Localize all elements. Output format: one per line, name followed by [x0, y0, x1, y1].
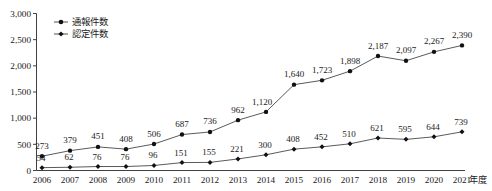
x-axis-tick-label: 2011 — [173, 175, 191, 185]
data-point-label: 221 — [230, 144, 244, 154]
data-point-marker — [376, 136, 381, 141]
x-axis-tick-label: 2006 — [33, 175, 52, 185]
data-point-label: 1,898 — [340, 56, 361, 66]
y-axis-tick-label: 1,500 — [10, 87, 31, 97]
data-point-label: 2,390 — [452, 30, 473, 40]
data-point-label: 451 — [91, 131, 105, 141]
data-point-marker — [208, 160, 213, 165]
x-axis-tick-label: 2014 — [257, 175, 276, 185]
data-point-marker — [432, 50, 436, 54]
x-axis-unit-label: 年度 — [469, 174, 487, 185]
x-axis-tick-label: 2010 — [145, 175, 164, 185]
y-axis-tick-label: 1,000 — [10, 113, 31, 123]
data-point-marker — [236, 118, 240, 122]
data-point-marker — [404, 137, 409, 142]
data-point-marker — [292, 82, 296, 86]
data-point-label: 62 — [65, 152, 74, 162]
data-point-marker — [432, 134, 437, 139]
series-line-1 — [42, 132, 462, 168]
data-point-label: 1,120 — [252, 97, 273, 107]
data-point-label: 273 — [35, 141, 49, 151]
data-point-marker — [348, 69, 352, 73]
data-point-label: 736 — [203, 116, 217, 126]
data-point-marker — [348, 141, 353, 146]
legend-label-1: 認定件数 — [72, 28, 109, 39]
data-point-marker — [96, 145, 100, 149]
x-axis-tick-label: 2015 — [285, 175, 304, 185]
data-point-label: 408 — [286, 134, 300, 144]
data-point-label: 408 — [119, 134, 133, 144]
data-point-label: 96 — [149, 150, 159, 160]
data-point-marker — [460, 43, 464, 47]
data-point-label: 2,267 — [424, 36, 445, 46]
data-point-marker — [376, 54, 380, 58]
data-point-marker — [292, 147, 297, 152]
x-axis-tick-label: 2007 — [61, 175, 80, 185]
data-point-label: 379 — [63, 135, 77, 145]
line-chart: 05001,0001,5002,0002,5003,00020062007200… — [0, 0, 492, 191]
data-point-marker — [208, 130, 212, 134]
data-point-marker — [68, 165, 73, 170]
data-point-label: 151 — [174, 148, 188, 158]
data-point-label: 2,187 — [368, 41, 389, 51]
data-point-label: 506 — [147, 129, 161, 139]
y-axis-tick-label: 2,500 — [10, 35, 31, 45]
data-point-marker — [152, 142, 156, 146]
data-point-marker — [320, 144, 325, 149]
y-axis-tick-label: 500 — [17, 140, 31, 150]
data-point-label: 510 — [342, 129, 356, 139]
data-point-label: 76 — [93, 152, 103, 162]
data-point-label: 621 — [370, 123, 384, 133]
data-point-label: 452 — [314, 132, 328, 142]
data-point-label: 300 — [258, 140, 272, 150]
y-axis-tick-label: 2,000 — [10, 61, 31, 71]
data-point-label: 1,723 — [312, 65, 333, 75]
data-point-label: 76 — [121, 152, 131, 162]
data-point-marker — [96, 164, 101, 169]
y-axis-tick-label: 0 — [26, 166, 31, 176]
data-point-marker — [264, 110, 268, 114]
y-axis-tick-label: 3,000 — [10, 9, 31, 19]
data-point-label: 2,097 — [396, 45, 417, 55]
x-axis-tick-label: 2018 — [369, 175, 388, 185]
x-axis-tick-label: 2016 — [313, 175, 332, 185]
data-point-label: 644 — [426, 122, 440, 132]
x-axis-tick-label: 2009 — [117, 175, 136, 185]
data-point-label: 687 — [175, 119, 189, 129]
x-axis-tick-label: 2012 — [201, 175, 220, 185]
data-point-marker — [152, 163, 157, 168]
data-point-marker — [320, 78, 324, 82]
data-point-marker — [236, 156, 241, 161]
data-point-marker — [180, 132, 184, 136]
data-point-marker — [40, 165, 45, 170]
data-point-label: 155 — [202, 147, 216, 157]
x-axis-tick-label: 2008 — [89, 175, 108, 185]
legend-label-0: 通報件数 — [72, 16, 109, 27]
data-point-marker — [124, 164, 129, 169]
data-point-marker — [180, 160, 185, 165]
data-point-label: 595 — [398, 124, 412, 134]
data-point-marker — [460, 129, 465, 134]
legend-marker-1 — [58, 31, 63, 36]
data-point-marker — [264, 152, 269, 157]
data-point-label: 739 — [454, 117, 468, 127]
x-axis-tick-label: 2019 — [397, 175, 416, 185]
x-axis-tick-label: 2017 — [341, 175, 360, 185]
data-point-label: 1,640 — [284, 69, 305, 79]
data-point-label: 962 — [231, 105, 245, 115]
x-axis-tick-label: 2013 — [229, 175, 248, 185]
data-point-label: 54 — [37, 153, 47, 163]
data-point-marker — [404, 59, 408, 63]
legend-marker-0 — [59, 20, 64, 25]
chart-canvas: 05001,0001,5002,0002,5003,00020062007200… — [0, 0, 492, 191]
x-axis-tick-label: 2020 — [425, 175, 444, 185]
